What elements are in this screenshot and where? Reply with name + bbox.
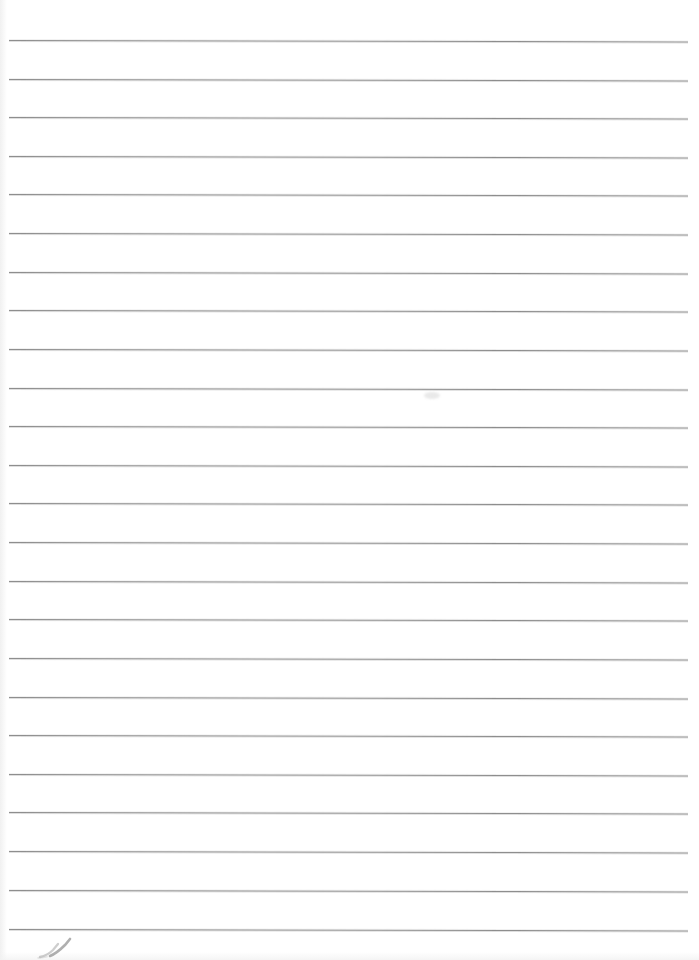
- rule-line: [9, 581, 688, 583]
- rule-line: [9, 426, 688, 428]
- rule-line: [9, 40, 688, 42]
- rule-line: [9, 349, 688, 351]
- rule-line: [9, 388, 688, 390]
- rule-line: [9, 233, 688, 235]
- rule-line: [9, 194, 688, 196]
- rule-line: [9, 812, 688, 814]
- rule-line: [9, 774, 688, 776]
- rule-line: [9, 697, 688, 699]
- rule-line: [9, 117, 688, 119]
- rule-line: [9, 272, 688, 274]
- ruled-lines-group: [0, 0, 699, 960]
- rule-line: [9, 79, 688, 81]
- rule-line: [9, 929, 688, 931]
- rule-line: [9, 735, 688, 737]
- rule-line: [9, 503, 688, 505]
- rule-line: [9, 890, 688, 892]
- rule-line: [9, 658, 688, 660]
- rule-line: [9, 542, 688, 544]
- rule-line: [9, 619, 688, 621]
- rule-line: [9, 465, 688, 467]
- rule-line: [9, 851, 688, 853]
- scanned-page: [0, 0, 699, 960]
- rule-line: [9, 310, 688, 312]
- rule-line: [9, 156, 688, 158]
